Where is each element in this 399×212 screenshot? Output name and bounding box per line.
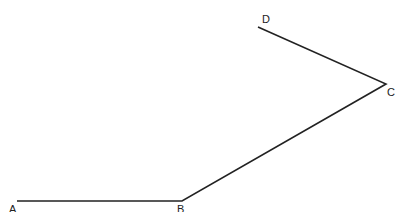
polyline-figure [0, 0, 399, 212]
point-label-a: A [9, 204, 16, 212]
point-label-c: C [387, 87, 395, 98]
point-label-d: D [262, 14, 270, 25]
point-label-b: B [177, 204, 184, 212]
diagram-canvas: A B C D [0, 0, 399, 212]
segment-path [17, 27, 386, 201]
